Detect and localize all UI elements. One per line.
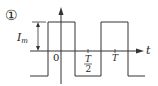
half-period-numerator: T (85, 54, 92, 64)
half-period-denominator: 2 (86, 64, 92, 74)
period-label: T (112, 53, 119, 63)
origin-label: 0 (53, 52, 59, 63)
amplitude-arrow-down-icon (36, 46, 40, 51)
axis-label-t: t (146, 44, 151, 57)
x-axis-arrow-icon (136, 49, 144, 54)
index-label: ① (5, 7, 18, 23)
y-axis-arrow-icon (59, 7, 64, 15)
amplitude-arrow-up-icon (36, 22, 40, 27)
square-wave-diagram: ① t Im 0 T 2 T (0, 0, 158, 86)
amplitude-label: Im (16, 31, 28, 45)
